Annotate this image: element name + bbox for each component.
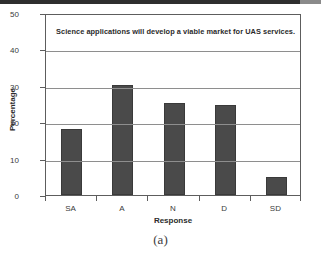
bar <box>61 129 82 195</box>
bar <box>266 177 287 195</box>
figure-caption: (a) <box>0 232 321 248</box>
x-tick-mark <box>147 196 148 201</box>
figure-panel-a: 01020304050 Percentage Science applicati… <box>0 0 321 258</box>
chart-plot-frame: Science applications will develop a viab… <box>45 14 301 196</box>
gridline <box>46 124 300 125</box>
gridline <box>46 51 300 52</box>
x-tick-mark <box>199 196 200 201</box>
x-tick-label: D <box>221 204 227 213</box>
x-axis-title: Response <box>45 216 301 225</box>
bar <box>215 105 236 195</box>
x-tick-label: A <box>119 204 124 213</box>
x-tick-mark <box>45 196 46 201</box>
chart-title: Science applications will develop a viab… <box>56 27 295 36</box>
y-tick-label: 50 <box>10 10 19 19</box>
x-tick-label: SD <box>270 204 281 213</box>
x-tick-label: N <box>170 204 176 213</box>
y-tick-label: 10 <box>10 155 19 164</box>
bar <box>112 85 133 195</box>
bar <box>164 103 185 195</box>
x-tick-mark <box>96 196 97 201</box>
bar-plot-area <box>46 15 300 195</box>
gridline <box>46 161 300 162</box>
x-tick-mark <box>300 196 301 201</box>
x-tick-mark <box>250 196 251 201</box>
x-tick-label: SA <box>65 204 76 213</box>
gridline <box>46 88 300 89</box>
y-tick-label: 40 <box>10 46 19 55</box>
y-tick-label: 0 <box>15 192 19 201</box>
y-axis-title: Percentage <box>8 75 17 145</box>
